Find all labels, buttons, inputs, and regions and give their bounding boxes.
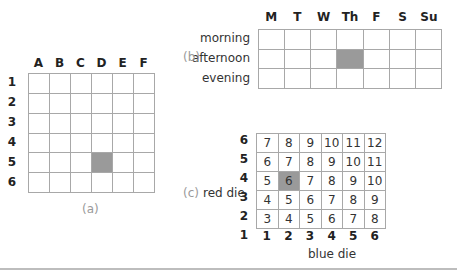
row-header: 2 <box>6 95 18 109</box>
grid-cell: 6 <box>257 153 279 172</box>
grid-cell <box>71 173 92 193</box>
grid-cell <box>92 173 113 193</box>
grid-cell <box>71 94 92 114</box>
grid-cell <box>134 114 155 134</box>
grid-cell <box>113 114 134 134</box>
grid-cell <box>285 30 311 50</box>
grid-cell: 10 <box>322 134 344 153</box>
row-header: morning <box>200 31 250 45</box>
grid-cell <box>416 50 442 70</box>
row-header: 6 <box>6 175 18 189</box>
grid-cell <box>71 114 92 134</box>
grid-cell: 10 <box>343 153 365 172</box>
grid-cell: 7 <box>300 172 322 191</box>
grid-cell <box>259 69 285 89</box>
row-header: 5 <box>6 155 18 169</box>
column-header: C <box>70 56 91 70</box>
grid-cell: 8 <box>365 210 387 229</box>
grid-cell <box>50 74 71 94</box>
grid-cell: 12 <box>365 134 387 153</box>
grid-cell: 9 <box>343 172 365 191</box>
grid-cell <box>134 153 155 173</box>
grid-cell <box>29 173 50 193</box>
panel-a-grid <box>28 73 155 193</box>
grid-cell <box>337 30 363 50</box>
column-header: Su <box>416 10 442 24</box>
col-label: 1 <box>256 229 278 243</box>
column-header: F <box>363 10 389 24</box>
grid-cell <box>364 30 390 50</box>
grid-cell: 4 <box>257 191 279 210</box>
grid-cell: 11 <box>343 134 365 153</box>
grid-cell: 7 <box>322 191 344 210</box>
grid-cell <box>416 69 442 89</box>
row-label: 5 <box>238 152 250 166</box>
grid-cell <box>285 69 311 89</box>
grid-cell <box>311 69 337 89</box>
col-label: 5 <box>342 229 364 243</box>
grid-cell <box>29 153 50 173</box>
grid-cell <box>71 153 92 173</box>
grid-cell: 8 <box>322 172 344 191</box>
grid-cell <box>311 30 337 50</box>
grid-cell <box>29 94 50 114</box>
grid-cell: 11 <box>365 153 387 172</box>
column-header: M <box>258 10 284 24</box>
grid-cell <box>92 94 113 114</box>
shaded-cell: 6 <box>279 172 301 191</box>
grid-cell <box>134 134 155 154</box>
red-die-axis-label: red die <box>203 186 245 200</box>
grid-cell: 4 <box>279 210 301 229</box>
grid-cell <box>259 50 285 70</box>
grid-cell <box>92 74 113 94</box>
column-header: Th <box>337 10 363 24</box>
row-header: evening <box>202 71 250 85</box>
grid-cell <box>50 134 71 154</box>
column-header: A <box>28 56 49 70</box>
grid-cell <box>311 50 337 70</box>
grid-cell <box>390 69 416 89</box>
grid-cell <box>50 173 71 193</box>
grid-cell <box>29 74 50 94</box>
grid-cell <box>29 134 50 154</box>
grid-cell <box>364 50 390 70</box>
row-header: 4 <box>6 135 18 149</box>
grid-cell <box>134 74 155 94</box>
grid-cell: 9 <box>322 153 344 172</box>
grid-cell <box>113 134 134 154</box>
panel-c-caption: (c) <box>183 186 199 200</box>
grid-cell <box>92 114 113 134</box>
grid-cell: 7 <box>279 153 301 172</box>
grid-cell: 8 <box>343 191 365 210</box>
grid-cell: 7 <box>343 210 365 229</box>
grid-cell <box>364 69 390 89</box>
grid-cell <box>337 69 363 89</box>
grid-cell: 5 <box>300 210 322 229</box>
grid-cell <box>71 74 92 94</box>
bottom-divider <box>0 268 457 270</box>
grid-cell <box>113 74 134 94</box>
grid-cell <box>285 50 311 70</box>
grid-cell: 6 <box>322 210 344 229</box>
grid-cell <box>259 30 285 50</box>
grid-cell <box>134 94 155 114</box>
grid-cell <box>50 94 71 114</box>
grid-cell <box>113 94 134 114</box>
row-header: 3 <box>6 115 18 129</box>
panel-c-grid: 789101112678910115678910456789345678 <box>256 133 386 229</box>
grid-cell <box>113 173 134 193</box>
grid-cell: 8 <box>300 153 322 172</box>
col-label: 4 <box>321 229 343 243</box>
grid-cell: 10 <box>365 172 387 191</box>
grid-cell <box>113 153 134 173</box>
blue-die-axis-label: blue die <box>308 247 356 261</box>
grid-cell <box>50 114 71 134</box>
grid-cell: 5 <box>279 191 301 210</box>
grid-cell: 9 <box>365 191 387 210</box>
grid-cell <box>29 114 50 134</box>
column-header: W <box>311 10 337 24</box>
grid-cell: 3 <box>257 210 279 229</box>
row-label: 2 <box>238 209 250 223</box>
grid-cell: 6 <box>300 191 322 210</box>
column-header: T <box>284 10 310 24</box>
